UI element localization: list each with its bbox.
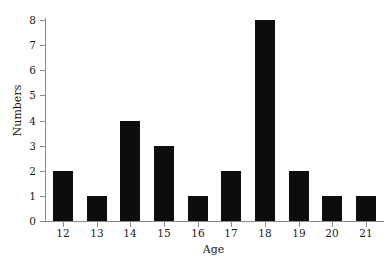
y-tick-mark [40, 146, 45, 147]
bar [322, 196, 342, 221]
bar [87, 196, 107, 221]
y-tick-label: 1 [6, 191, 36, 201]
y-tick-mark [40, 121, 45, 122]
bar [255, 20, 275, 221]
y-tick-mark [40, 45, 45, 46]
x-tick-label: 21 [346, 227, 386, 239]
y-tick-mark [40, 196, 45, 197]
y-axis-title: Numbers [11, 51, 24, 171]
x-axis-line [45, 221, 384, 222]
plot-area [46, 20, 383, 221]
y-tick-label: 8 [6, 15, 36, 25]
y-tick-label: 7 [6, 40, 36, 50]
y-tick-mark [40, 95, 45, 96]
y-tick-mark [40, 221, 45, 222]
bar [221, 171, 241, 221]
bar [289, 171, 309, 221]
bar-chart: 012345678 12131415161718192021 Age Numbe… [0, 0, 391, 264]
y-tick-mark [40, 70, 45, 71]
x-axis-title: Age [0, 243, 391, 256]
y-tick-mark [40, 171, 45, 172]
bar [120, 121, 140, 222]
bar [53, 171, 73, 221]
bar [188, 196, 208, 221]
y-tick-label: 0 [6, 216, 36, 226]
x-axis-title-text: Age [203, 243, 225, 256]
bar [154, 146, 174, 221]
y-tick-mark [40, 20, 45, 21]
bar [356, 196, 376, 221]
